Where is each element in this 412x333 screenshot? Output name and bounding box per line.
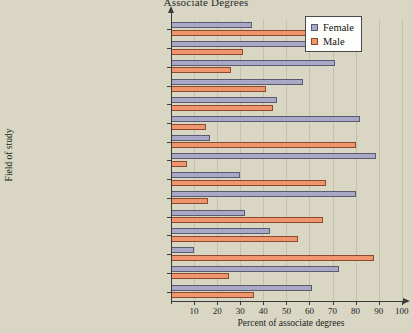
chart-row: Physical Sciences [171,226,411,245]
bar-female [171,247,194,253]
bar-male [171,255,374,261]
bar-female [171,97,277,103]
chart-row: Accounting [171,57,411,76]
bar-male [171,198,208,204]
bar-male [171,217,323,223]
bar-female [171,228,270,234]
bar-male [171,105,273,111]
y-axis-line [171,12,172,304]
x-axis-tick [402,301,403,305]
bar-male [171,30,314,36]
bar-male [171,180,326,186]
bar-female [171,41,316,47]
bar-male [171,236,298,242]
bar-male [171,142,356,148]
bar-male [171,161,187,167]
x-axis-tick-label: 100 [389,306,412,316]
bar-female [171,191,356,197]
legend-label-male: Male [323,36,345,47]
legend-swatch-male-icon [311,38,318,45]
x-axis-tick [333,301,334,305]
legend-item-female: Female [311,20,354,34]
x-axis-tick [379,301,380,305]
x-axis-tick [217,301,218,305]
chart-row: Mathematics and Statistics [171,207,411,226]
chart-row: Business/Commerce [171,76,411,95]
x-axis-tick [356,301,357,305]
bar-female [171,172,240,178]
bar-male [171,124,206,130]
bar-male [171,86,266,92]
bar-female [171,116,360,122]
x-axis-tick [263,301,264,305]
chart-row: Communication/Journalism [171,95,411,114]
plot-area: Agriculture and Natural ResourcesBiologi… [171,20,411,301]
bar-female [171,210,245,216]
chart-row: Biological and Biomedical Sciences [171,39,411,58]
chart-legend: Female Male [305,16,362,52]
associate-degrees-chart: Associate Degrees Field of study Agricul… [0,0,412,333]
x-axis-tick [286,301,287,305]
x-axis-tick [240,301,241,305]
legend-item-male: Male [311,34,354,48]
bar-male [171,49,243,55]
x-axis-tick [194,301,195,305]
chart-row: Psychology [171,264,411,283]
chart-row: Legal Professions [171,189,411,208]
legend-swatch-female-icon [311,24,318,31]
bar-male [171,273,229,279]
y-axis-title: Field of study [4,105,14,205]
bar-male [171,67,231,73]
bar-female [171,22,252,28]
chart-row: Education [171,114,411,133]
legend-label-female: Female [323,22,354,33]
bar-female [171,79,303,85]
bar-female [171,266,339,272]
bar-female [171,60,335,66]
bar-female [171,285,312,291]
x-axis-tick [309,301,310,305]
chart-row: Social Sciences [171,282,411,301]
chart-row: Emergency Medical Technician [171,170,411,189]
chart-row: Precision Production [171,245,411,264]
chart-row: Agriculture and Natural Resources [171,20,411,39]
x-axis-title: Percent of associate degrees [171,318,411,328]
bar-female [171,153,376,159]
chart-row: Engineering [171,132,411,151]
chart-title: Associate Degrees [0,0,412,8]
bar-male [171,292,254,298]
bar-female [171,135,210,141]
chart-row: Family and Consumer Sciences [171,151,411,170]
